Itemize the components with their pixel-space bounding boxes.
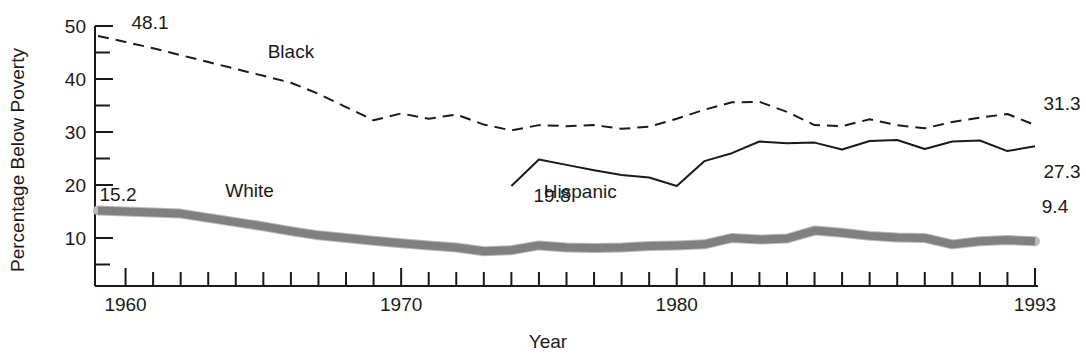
x-axis-tick-labels: 1960197019801993 — [104, 294, 1056, 315]
series-line-white — [98, 210, 1035, 251]
x-axis-tick-label: 1970 — [380, 294, 422, 315]
series-line-black — [98, 36, 1035, 130]
start-value-label-white: 15.2 — [100, 184, 137, 205]
x-axis-ticks — [126, 268, 1035, 286]
poverty-rate-line-chart: Percentage Below Poverty 1020304050 1960… — [0, 0, 1086, 364]
y-axis-tick-label: 20 — [65, 175, 86, 196]
y-axis-tick-label: 10 — [65, 228, 86, 249]
y-axis-tick-label: 40 — [65, 69, 86, 90]
start-value-label-hispanic: 19.8 — [534, 185, 571, 206]
series-line-hispanic — [511, 140, 1035, 186]
y-axis-tick-label: 50 — [65, 16, 86, 37]
series-label-white: White — [225, 180, 274, 201]
end-value-label-hispanic: 27.3 — [1044, 161, 1081, 182]
x-axis-tick-label: 1993 — [1014, 294, 1056, 315]
end-value-label-black: 31.3 — [1044, 93, 1081, 114]
x-axis-tick-label: 1960 — [104, 294, 146, 315]
y-axis-tick-label: 30 — [65, 122, 86, 143]
series-inline-labels: BlackHispanicWhite — [225, 41, 616, 202]
end-value-label-white: 9.4 — [1042, 196, 1069, 217]
y-axis-title-label: Percentage Below Poverty — [7, 48, 28, 272]
chart-canvas: Percentage Below Poverty 1020304050 1960… — [0, 0, 1086, 364]
x-axis-tick-label: 1980 — [656, 294, 698, 315]
start-value-label-black: 48.1 — [132, 12, 169, 33]
x-axis-title: Year — [529, 331, 568, 352]
data-series-group — [98, 36, 1035, 251]
y-axis-ticks — [95, 26, 113, 265]
y-axis-title: Percentage Below Poverty — [7, 48, 28, 272]
series-label-black: Black — [268, 41, 315, 62]
y-axis-tick-labels: 1020304050 — [65, 16, 86, 249]
x-axis-title-label: Year — [529, 331, 568, 352]
